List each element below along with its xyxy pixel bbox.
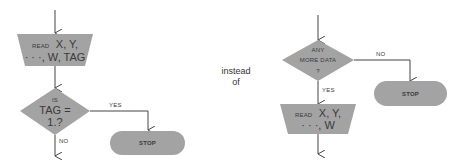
read-vars-line1: X, Y, [319,107,341,119]
read-vars-line2: · · ·, W, TAG [25,51,86,63]
read-vars-line2: · · ·, W [301,119,335,131]
decision-line3: ? [316,68,320,74]
decision-line2: TAG = [39,104,70,116]
caption-line2: of [212,77,260,88]
yes-branch-connector [90,111,148,130]
decision-line1: IS [52,97,58,103]
decision-tag-shape: IS TAG = 1.? [20,88,90,135]
stop-terminal: STOP [374,81,447,106]
right-flowchart: ANY MORE DATA ? NO STOP YES READ X, Y, ·… [280,15,447,154]
instead-of-caption: instead of [212,66,260,88]
decision-line3: 1.? [47,116,62,128]
no-label: NO [59,138,69,144]
stop-terminal: STOP [110,131,185,155]
read-keyword: READ [32,43,50,49]
yes-label: YES [109,102,122,108]
yes-label: YES [322,87,335,93]
input-read-shape: READ X, Y, · · ·, W [280,103,356,134]
no-label: NO [376,51,386,57]
left-flowchart: READ X, Y, · · ·, W, TAG IS TAG = 1.? NO… [17,10,185,156]
caption-line1: instead [212,66,260,77]
input-read-shape: READ X, Y, · · ·, W, TAG [17,34,93,66]
stop-label: STOP [139,140,156,146]
decision-line1: ANY [312,47,325,53]
no-branch-connector [354,60,410,81]
read-keyword: READ [295,112,313,118]
stop-label: STOP [402,91,419,97]
decision-line2: MORE DATA [300,57,337,63]
decision-more-data-shape: ANY MORE DATA ? [282,40,354,81]
read-vars-line1: X, Y, [56,38,78,50]
